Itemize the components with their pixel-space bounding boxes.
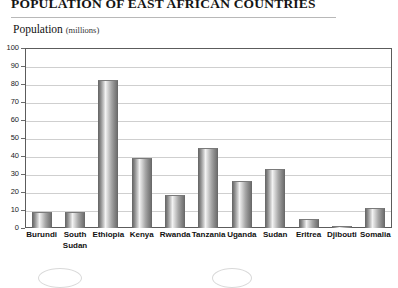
x-axis-tick-label: Somalia: [359, 230, 392, 241]
x-axis-tick-label: Rwanda: [158, 230, 191, 241]
bar: [232, 181, 252, 228]
bar: [65, 212, 85, 228]
y-axis-tick-label: 0: [0, 223, 19, 232]
bar: [299, 219, 319, 228]
bar-series: [25, 48, 392, 228]
bar-slot: [25, 48, 58, 228]
bar-slot: [292, 48, 325, 228]
title-divider: [11, 17, 336, 18]
bar-slot: [259, 48, 292, 228]
bar-slot: [192, 48, 225, 228]
bar-slot: [158, 48, 191, 228]
bar-slot: [225, 48, 258, 228]
x-axis-tick-label: Djibouti: [325, 230, 358, 241]
y-axis-tick-label: 40: [0, 151, 19, 160]
bar: [265, 169, 285, 228]
y-axis-tick-label: 50: [0, 133, 19, 142]
bar: [165, 195, 185, 228]
bar: [198, 148, 218, 228]
page-artifact-right: [212, 268, 252, 288]
bar-slot: [359, 48, 392, 228]
y-axis-tick-label: 80: [0, 79, 19, 88]
x-axis-tick-label: Sudan: [259, 230, 292, 241]
y-axis-tick-label: 70: [0, 97, 19, 106]
x-axis-tick-label: Eritrea: [292, 230, 325, 241]
bar: [98, 80, 118, 228]
y-axis-tick-mark: [21, 228, 25, 229]
page-title: POPULATION OF EAST AFRICAN COUNTRIES: [11, 0, 351, 12]
y-axis-caption-unit: (millions): [66, 25, 100, 35]
y-axis-tick-label: 90: [0, 61, 19, 70]
bar: [32, 212, 52, 228]
y-axis-tick-label: 10: [0, 205, 19, 214]
y-axis-tick-label: 100: [0, 43, 19, 52]
bar: [132, 158, 152, 228]
bar-slot: [58, 48, 91, 228]
page-artifact-left: [38, 268, 82, 288]
x-axis-tick-label: Ethiopia: [92, 230, 125, 241]
bar-slot: [92, 48, 125, 228]
y-axis-tick-label: 60: [0, 115, 19, 124]
y-axis-caption: Population (millions): [13, 23, 99, 35]
bar: [365, 208, 385, 228]
bar-slot: [125, 48, 158, 228]
y-axis-caption-name: Population: [13, 23, 63, 35]
bar-slot: [325, 48, 358, 228]
x-axis-tick-label: Burundi: [25, 230, 58, 241]
x-axis-tick-label: South Sudan: [58, 230, 91, 251]
bar: [332, 226, 352, 228]
y-axis-tick-label: 30: [0, 169, 19, 178]
y-axis-tick-label: 20: [0, 187, 19, 196]
x-axis-labels: BurundiSouth SudanEthiopiaKenyaRwandaTan…: [25, 230, 392, 264]
x-axis-tick-label: Kenya: [125, 230, 158, 241]
x-axis-tick-label: Tanzania: [192, 230, 225, 241]
x-axis-tick-label: Uganda: [225, 230, 258, 241]
